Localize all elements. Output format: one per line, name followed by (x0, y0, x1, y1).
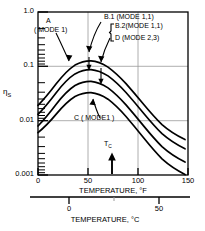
y-axis-ticks (38, 12, 48, 175)
tc-marker (108, 153, 116, 175)
x-axis-ticks (38, 168, 188, 175)
arrowhead-b2 (98, 56, 104, 62)
annotation-b1: B.1 (MODE 1,1) (104, 13, 154, 20)
annotation-a: A (46, 17, 51, 24)
ytick-label-0.1: 0.1 (2, 61, 34, 69)
x-axis-title: TEMPERATURE, °F (48, 187, 178, 195)
ytick-label-1.0: 1.0 (2, 7, 34, 15)
y-axis-title: ηS (3, 88, 11, 98)
xtick-label-0: 0 (30, 177, 46, 185)
xtick-label-100: 100 (128, 177, 148, 185)
arrowhead-b1 (86, 46, 92, 52)
annotation-b2: B.2(MODE 1,1) (115, 22, 163, 29)
chart-figure: 1.0 0.1 0.01 0.001 ηS 0 50 100 150 TEMPE… (0, 0, 205, 231)
xtick-label-50: 50 (80, 177, 96, 185)
annotation-d: D (MODE 2,3) (115, 34, 159, 41)
annotation-a-mode: ( MODE 1) (34, 26, 67, 33)
celsius-axis (30, 197, 190, 204)
ytick-label-0.01: 0.01 (2, 116, 34, 124)
celsius-axis-title: TEMPERATURE, °C (40, 216, 170, 224)
ctick-label-0: 0 (61, 205, 77, 213)
ctick-label-50: 50 (151, 205, 167, 213)
ytick-label-0.001: 0.001 (0, 170, 34, 178)
annotation-c: C ( MODE1 ) (74, 114, 114, 121)
arrowhead-c (89, 99, 95, 105)
arrowhead-a (66, 55, 72, 61)
xtick-label-150: 150 (178, 177, 198, 185)
annotation-tc: TC (104, 140, 112, 150)
